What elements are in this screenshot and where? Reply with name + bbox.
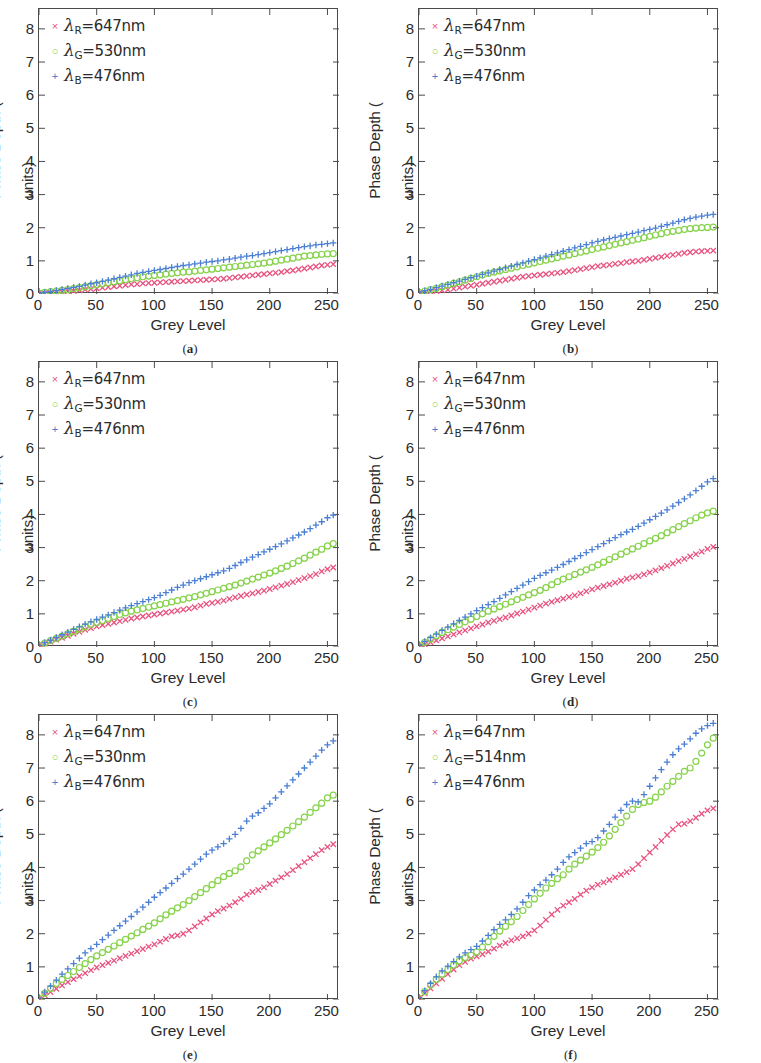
legend-label: λG=530nm [444, 42, 526, 60]
y-tick-label: 0 [394, 991, 414, 1008]
legend-marker-icon: ○ [46, 46, 64, 57]
x-tick-label: 200 [636, 296, 661, 313]
legend-marker-icon: + [426, 71, 444, 82]
data-series [39, 565, 336, 647]
legend-item: ○λG=530nm [426, 392, 526, 417]
legend-item: ○λG=530nm [46, 392, 146, 417]
legend-marker-icon: + [46, 424, 64, 435]
x-tick-label: 200 [256, 296, 281, 313]
legend-item: ×λR=647nm [426, 367, 526, 392]
x-axis-label: Grey Level [38, 316, 338, 334]
y-tick-label: 1 [394, 251, 414, 268]
legend: ×λR=647nm○λG=514nm+λB=476nm [426, 720, 526, 795]
y-tick-label: 0 [14, 285, 34, 302]
y-tick-label: 8 [14, 19, 34, 36]
y-tick-label: 0 [14, 638, 34, 655]
x-tick-label: 0 [34, 649, 42, 666]
x-tick-label: 250 [694, 1002, 719, 1019]
legend-marker-icon: ○ [426, 752, 444, 763]
x-tick-label: 150 [579, 1002, 604, 1019]
y-tick-label: 8 [394, 725, 414, 742]
x-tick-label: 0 [414, 649, 422, 666]
legend-label: λR=647nm [64, 17, 145, 35]
x-tick-label: 250 [314, 1002, 339, 1019]
data-series [419, 544, 716, 647]
y-tick-label: 5 [14, 119, 34, 136]
x-tick-label: 100 [141, 296, 166, 313]
legend-marker-icon: ○ [426, 399, 444, 410]
panel-cell-e: Phase Depth (π units)0123456780501001502… [0, 706, 380, 1059]
legend-label: λR=647nm [64, 723, 145, 741]
y-tick-label: 1 [14, 957, 34, 974]
legend-item: ○λG=530nm [46, 745, 146, 770]
legend-label: λR=647nm [444, 370, 525, 388]
legend-marker-icon: × [426, 727, 444, 738]
x-tick-labels: 050100150200250 [418, 296, 718, 316]
x-tick-label: 250 [314, 296, 339, 313]
y-tick-label: 1 [394, 604, 414, 621]
y-tick-label: 5 [394, 825, 414, 842]
x-tick-label: 50 [87, 1002, 104, 1019]
data-series [39, 240, 336, 294]
panel-cell-c: Phase Depth (π units)0123456780501001502… [0, 353, 380, 706]
y-tick-label: 7 [394, 53, 414, 70]
x-tick-labels: 050100150200250 [38, 1002, 338, 1022]
data-series [39, 512, 336, 647]
legend-label: λB=476nm [64, 773, 145, 791]
legend-item: ×λR=647nm [426, 14, 526, 39]
y-tick-label: 3 [14, 538, 34, 555]
x-tick-label: 100 [141, 649, 166, 666]
x-tick-label: 150 [579, 649, 604, 666]
y-tick-label: 8 [14, 725, 34, 742]
legend-item: +λB=476nm [46, 64, 146, 89]
legend-marker-icon: × [46, 374, 64, 385]
legend-item: ×λR=647nm [426, 720, 526, 745]
legend-marker-icon: ○ [426, 46, 444, 57]
y-tick-label: 3 [14, 891, 34, 908]
y-tick-labels: 012345678 [12, 361, 34, 646]
panel-d: Phase Depth (π units)0123456780501001502… [380, 353, 761, 706]
x-tick-label: 0 [34, 296, 42, 313]
y-tick-label: 2 [394, 924, 414, 941]
legend-item: ×λR=647nm [46, 14, 146, 39]
x-tick-labels: 050100150200250 [38, 296, 338, 316]
x-tick-label: 50 [467, 649, 484, 666]
data-series [39, 792, 336, 1000]
y-tick-label: 1 [14, 604, 34, 621]
x-tick-label: 50 [87, 649, 104, 666]
legend: ×λR=647nm○λG=530nm+λB=476nm [46, 367, 146, 442]
data-series [419, 248, 716, 294]
legend-label: λB=476nm [444, 420, 525, 438]
y-tick-label: 4 [14, 505, 34, 522]
legend-item: +λB=476nm [426, 417, 526, 442]
y-tick-label: 5 [394, 119, 414, 136]
legend-marker-icon: + [426, 424, 444, 435]
legend-marker-icon: × [46, 21, 64, 32]
y-tick-label: 8 [394, 19, 414, 36]
y-tick-label: 8 [14, 372, 34, 389]
legend-item: ×λR=647nm [46, 367, 146, 392]
x-tick-label: 0 [414, 296, 422, 313]
y-tick-label: 2 [394, 218, 414, 235]
y-tick-label: 4 [14, 858, 34, 875]
x-axis-label: Grey Level [418, 669, 718, 687]
y-tick-label: 4 [394, 505, 414, 522]
data-series [419, 224, 716, 294]
y-tick-label: 1 [394, 957, 414, 974]
x-tick-label: 150 [199, 649, 224, 666]
x-tick-label: 200 [256, 1002, 281, 1019]
y-tick-labels: 012345678 [392, 714, 414, 999]
x-axis-label: Grey Level [38, 1022, 338, 1040]
legend-label: λG=530nm [64, 748, 146, 766]
data-series [419, 806, 716, 1000]
legend-item: ○λG=530nm [46, 39, 146, 64]
y-tick-label: 3 [14, 185, 34, 202]
y-tick-label: 7 [394, 406, 414, 423]
y-tick-label: 4 [394, 858, 414, 875]
x-tick-label: 200 [636, 1002, 661, 1019]
y-tick-label: 6 [14, 792, 34, 809]
y-tick-label: 4 [394, 152, 414, 169]
y-tick-label: 7 [14, 759, 34, 776]
x-axis-label: Grey Level [418, 1022, 718, 1040]
